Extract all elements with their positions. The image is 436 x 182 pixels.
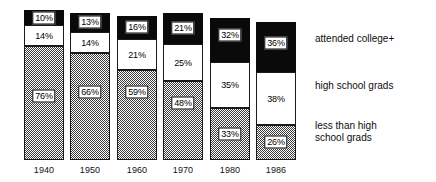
- segment-lessthan-1950: [70, 53, 110, 160]
- value-label-highschool-1960: 21%: [126, 50, 147, 61]
- legend-item-lessthan: less than high school grads: [315, 120, 377, 144]
- value-label-college-1970: 21%: [171, 22, 194, 35]
- stacked-bar-chart: 10% 14% 76% 13% 14% 66% 16% 21% 59% 21% …: [0, 0, 436, 182]
- value-label-highschool-1970: 25%: [172, 58, 193, 69]
- value-label-lessthan-1980: 33%: [218, 128, 241, 141]
- legend-item-highschool: high school grads: [315, 80, 393, 92]
- axis-label-1986: 1986: [266, 165, 286, 176]
- value-label-lessthan-1970: 48%: [171, 97, 194, 110]
- value-label-lessthan-1960: 59%: [125, 86, 148, 99]
- value-label-lessthan-1940: 76%: [32, 90, 55, 103]
- axis-label-1940: 1940: [34, 165, 54, 176]
- bar-1986: 36% 38% 26%: [256, 22, 296, 160]
- value-label-college-1950: 13%: [78, 16, 101, 29]
- segment-lessthan-1970: [163, 81, 203, 160]
- value-label-college-1980: 32%: [218, 29, 241, 42]
- legend-item-college: attended college+: [315, 33, 394, 45]
- axis-label-1980: 1980: [220, 165, 240, 176]
- value-label-highschool-1986: 38%: [265, 94, 286, 105]
- value-label-college-1960: 16%: [125, 21, 148, 34]
- value-label-lessthan-1950: 66%: [78, 86, 101, 99]
- value-label-highschool-1940: 14%: [33, 31, 54, 42]
- axis-label-1970: 1970: [173, 165, 193, 176]
- bar-1950: 13% 14% 66%: [70, 13, 110, 160]
- bar-1940: 10% 14% 76%: [24, 10, 64, 160]
- value-label-college-1986: 36%: [264, 37, 287, 50]
- axis-label-1960: 1960: [127, 165, 147, 176]
- axis-label-1950: 1950: [80, 165, 100, 176]
- bar-1960: 16% 21% 59%: [117, 16, 157, 160]
- value-label-highschool-1950: 14%: [79, 38, 100, 49]
- segment-lessthan-1940: [24, 46, 64, 160]
- value-label-college-1940: 10%: [32, 12, 55, 25]
- value-label-lessthan-1986: 26%: [264, 136, 287, 149]
- bar-1970: 21% 25% 48%: [163, 13, 203, 160]
- bar-1980: 32% 35% 33%: [210, 18, 250, 160]
- value-label-highschool-1980: 35%: [219, 80, 240, 91]
- segment-lessthan-1960: [117, 70, 157, 160]
